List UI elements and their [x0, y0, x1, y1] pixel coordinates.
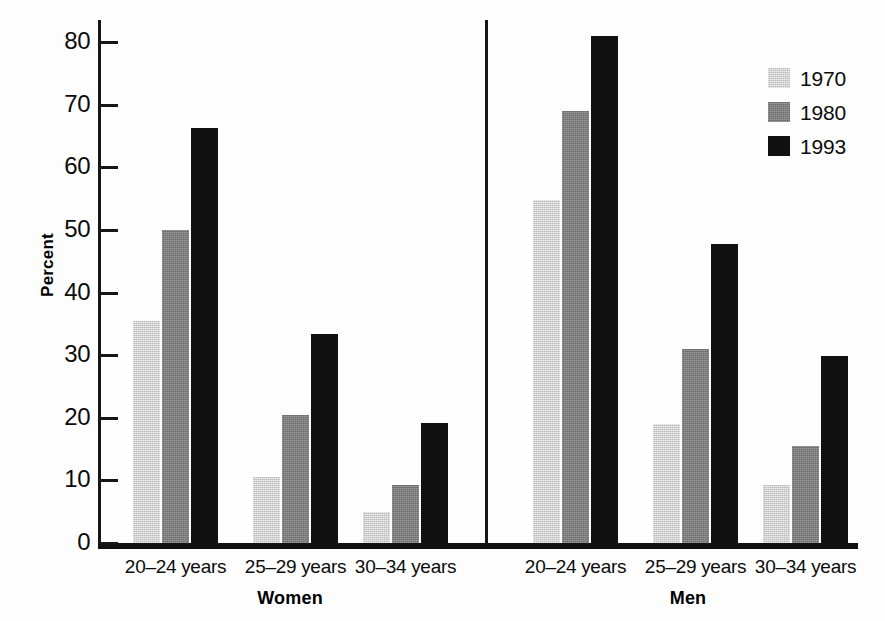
x-axis-line [98, 543, 858, 549]
y-tick-label: 60 [42, 154, 90, 178]
panel-divider-line [485, 20, 488, 545]
y-axis-line [98, 20, 101, 545]
legend-item-1970: 1970 [768, 62, 880, 94]
y-tick-label: 10 [42, 467, 90, 491]
bar-women-2-1970 [253, 477, 280, 543]
y-tick-label: 70 [42, 92, 90, 116]
bar-men-3-1970 [763, 485, 790, 543]
y-tick-0 [101, 542, 118, 545]
panel-label-women: Women [190, 588, 390, 609]
y-tick-label-wrap-50: 50 [28, 217, 90, 241]
bar-women-2-1980 [282, 415, 309, 543]
y-tick-label: 50 [42, 217, 90, 241]
bar-men-1-1993 [591, 36, 618, 543]
legend-label: 1980 [800, 102, 846, 123]
y-tick-60 [101, 166, 118, 169]
legend-item-1980: 1980 [768, 96, 880, 128]
y-tick-label-wrap-80: 80 [28, 29, 90, 53]
legend-swatch-icon-1970 [768, 68, 790, 88]
y-tick-label: 30 [42, 342, 90, 366]
y-tick-label: 20 [42, 405, 90, 429]
legend: 197019801993 [768, 62, 880, 164]
bar-men-2-1970 [653, 424, 680, 543]
legend-item-1993: 1993 [768, 130, 880, 162]
y-tick-label-wrap-40: 40 [28, 280, 90, 304]
y-tick-label-wrap-70: 70 [28, 92, 90, 116]
bar-men-2-1980 [682, 349, 709, 543]
legend-label: 1970 [800, 68, 846, 89]
y-tick-80 [101, 41, 118, 44]
bar-women-3-1980 [392, 485, 419, 543]
x-category-label-men-3: 30–34 years [726, 556, 885, 578]
y-tick-label: 40 [42, 280, 90, 304]
bar-women-2-1993 [311, 334, 338, 543]
bar-men-1-1970 [533, 200, 560, 543]
y-tick-50 [101, 229, 118, 232]
chart-figure: Percent 01020304050607080 20–24 years25–… [0, 0, 885, 621]
y-tick-label-wrap-10: 10 [28, 467, 90, 491]
legend-swatch-icon-1993 [768, 136, 790, 156]
y-tick-10 [101, 479, 118, 482]
bar-men-3-1993 [821, 356, 848, 543]
y-tick-30 [101, 354, 118, 357]
bar-men-1-1980 [562, 111, 589, 543]
bar-men-3-1980 [792, 446, 819, 543]
y-tick-40 [101, 292, 118, 295]
bar-women-1-1993 [191, 128, 218, 543]
bar-women-3-1993 [421, 423, 448, 543]
y-tick-label-wrap-60: 60 [28, 154, 90, 178]
bar-women-1-1970 [133, 321, 160, 543]
legend-label: 1993 [800, 136, 846, 157]
legend-swatch-icon-1980 [768, 102, 790, 122]
y-tick-label-wrap-20: 20 [28, 405, 90, 429]
y-tick-label-wrap-30: 30 [28, 342, 90, 366]
y-tick-label: 80 [42, 29, 90, 53]
panel-label-men: Men [588, 588, 788, 609]
y-tick-70 [101, 104, 118, 107]
bar-women-3-1970 [363, 512, 390, 543]
bar-men-2-1993 [711, 244, 738, 543]
y-tick-label: 0 [42, 530, 90, 554]
y-tick-label-wrap-0: 0 [28, 530, 90, 554]
y-tick-20 [101, 417, 118, 420]
x-category-label-women-3: 30–34 years [326, 556, 486, 578]
bar-women-1-1980 [162, 230, 189, 543]
